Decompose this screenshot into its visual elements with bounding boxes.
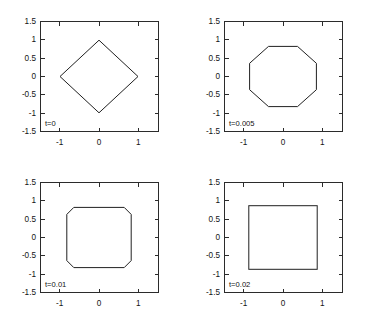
panel-1-svg: 1.5 1 0.5 0 -0.5 -1 -1.5 -1 0 1 bbox=[0, 0, 184, 161]
panel-1-ytick-label: 1 bbox=[31, 35, 36, 44]
panel-1-ytick-label: -1 bbox=[29, 109, 37, 118]
panel-3-ytick-label: -1 bbox=[29, 270, 37, 279]
panel-2-svg: 1.5 1 0.5 0 -0.5 -1 -1.5 -1 0 1 bbox=[184, 0, 368, 161]
panel-2-ytick-label: 0 bbox=[215, 72, 220, 81]
panel-2-axes-frame bbox=[225, 22, 343, 132]
panel-4-svg: 1.5 1 0.5 0 -0.5 -1 -1.5 -1 0 1 bbox=[184, 161, 368, 323]
panel-3-ytick-label: -0.5 bbox=[22, 251, 37, 260]
panel-1-xtick-label: -1 bbox=[56, 138, 64, 147]
subplot-panel-2: 1.5 1 0.5 0 -0.5 -1 -1.5 -1 0 1 bbox=[184, 0, 368, 161]
panel-4-ytick-label: 0 bbox=[215, 233, 220, 242]
panel-1-xtick-label: 0 bbox=[97, 138, 102, 147]
panel-1-ytick-label: 0 bbox=[31, 72, 36, 81]
panel-2-ytick-label: 1.5 bbox=[209, 17, 221, 26]
subplot-panel-1: 1.5 1 0.5 0 -0.5 -1 -1.5 -1 0 1 bbox=[0, 0, 184, 161]
panel-3-ytick-label: 1 bbox=[31, 196, 36, 205]
panel-2-xtick-label: -1 bbox=[240, 138, 248, 147]
panel-3-xtick-label: 0 bbox=[97, 299, 102, 308]
subplot-panel-3: 1.5 1 0.5 0 -0.5 -1 -1.5 -1 0 1 bbox=[0, 161, 184, 322]
panel-4-xtick-label: -1 bbox=[240, 299, 248, 308]
panel-3-ytick-label: -1.5 bbox=[22, 288, 37, 297]
panel-2-contour bbox=[250, 46, 317, 106]
panel-3-ytick-label: 0 bbox=[31, 233, 36, 242]
panel-1-ytick-label: -0.5 bbox=[22, 90, 37, 99]
panel-1-ytick-label: 1.5 bbox=[25, 17, 37, 26]
panel-2-time-label: t=0.005 bbox=[229, 119, 255, 128]
panel-1-contour bbox=[60, 40, 138, 113]
panel-4-ytick-label: -0.5 bbox=[206, 251, 221, 260]
figure-canvas: 1.5 1 0.5 0 -0.5 -1 -1.5 -1 0 1 bbox=[0, 0, 368, 323]
panel-2-ytick-label: 0.5 bbox=[209, 54, 221, 63]
panel-4-time-label: t=0.02 bbox=[229, 280, 250, 289]
panel-4-xtick-label: 1 bbox=[320, 299, 325, 308]
panel-2-ytick-label: 1 bbox=[215, 35, 220, 44]
panel-4-ytick-label: 1.5 bbox=[209, 178, 221, 187]
panel-1-axes-frame bbox=[41, 22, 159, 132]
panel-2-ytick-label: -1.5 bbox=[206, 127, 221, 136]
panel-1-time-label: t=0 bbox=[45, 119, 56, 128]
panel-4-xtick-label: 0 bbox=[281, 299, 286, 308]
subplot-panel-4: 1.5 1 0.5 0 -0.5 -1 -1.5 -1 0 1 bbox=[184, 161, 368, 322]
panel-3-ytick-label: 0.5 bbox=[25, 215, 37, 224]
panel-4-contour bbox=[249, 206, 317, 270]
panel-2-xtick-label: 1 bbox=[320, 138, 325, 147]
panel-3-xtick-label: 1 bbox=[136, 299, 141, 308]
panel-4-axes-frame bbox=[225, 183, 343, 293]
panel-4-ytick-label: -1 bbox=[213, 270, 221, 279]
panel-4-ytick-label: 0.5 bbox=[209, 215, 221, 224]
panel-3-time-label: t=0.01 bbox=[45, 280, 66, 289]
panel-3-contour bbox=[67, 207, 131, 267]
panel-2-ytick-label: -1 bbox=[213, 109, 221, 118]
panel-3-xtick-label: -1 bbox=[56, 299, 64, 308]
panel-3-ytick-label: 1.5 bbox=[25, 178, 37, 187]
panel-2-ytick-label: -0.5 bbox=[206, 90, 221, 99]
panel-4-ytick-label: -1.5 bbox=[206, 288, 221, 297]
panel-1-ytick-label: -1.5 bbox=[22, 127, 37, 136]
panel-3-svg: 1.5 1 0.5 0 -0.5 -1 -1.5 -1 0 1 bbox=[0, 161, 184, 323]
panel-1-ytick-label: 0.5 bbox=[25, 54, 37, 63]
panel-2-xtick-label: 0 bbox=[281, 138, 286, 147]
panel-4-ytick-label: 1 bbox=[215, 196, 220, 205]
panel-3-axes-frame bbox=[41, 183, 159, 293]
panel-1-xtick-label: 1 bbox=[136, 138, 141, 147]
